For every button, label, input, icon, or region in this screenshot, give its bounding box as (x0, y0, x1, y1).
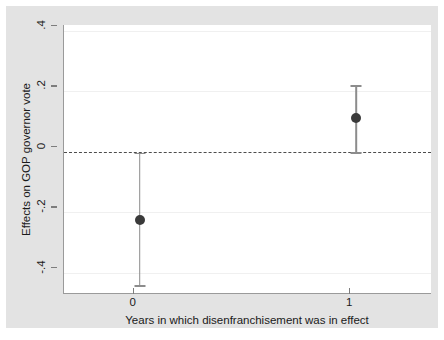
error-bar-cap-lower (351, 152, 362, 154)
gridline-y (64, 212, 431, 213)
y-axis-tick-label: -.4 (35, 260, 47, 273)
y-axis-tick-label: .2 (35, 81, 47, 91)
x-axis-tick-label: 0 (130, 296, 136, 308)
gridline-y (64, 273, 431, 274)
gridline-y (64, 91, 431, 92)
y-axis-tick-label: .4 (35, 20, 47, 30)
chart-screenshot: Effects on GOP governor vote .4.20-.2-.4… (0, 0, 444, 340)
y-axis-tick (51, 206, 57, 207)
y-axis-tick-label: -.2 (35, 200, 47, 213)
data-point-marker (135, 215, 145, 225)
data-point-marker (351, 113, 361, 123)
y-axis-tick (51, 85, 57, 86)
x-axis-title: Years in which disenfranchisement was in… (63, 314, 431, 326)
x-axis-tick (349, 288, 350, 294)
figure-background: Effects on GOP governor vote .4.20-.2-.4… (6, 6, 438, 328)
plot-inner (64, 25, 431, 293)
error-bar-cap-lower (134, 285, 145, 287)
y-axis-tick (51, 267, 57, 268)
plot-region (63, 25, 431, 294)
y-axis-title: Effects on GOP governor vote (18, 25, 34, 294)
zero-reference-line (64, 152, 431, 153)
error-bar-cap-upper (351, 85, 362, 87)
y-axis-tick (51, 146, 57, 147)
y-axis-tick-label: 0 (35, 143, 47, 149)
x-axis-tick-label: 1 (346, 296, 352, 308)
x-axis-tick (133, 288, 134, 294)
gridline-y (64, 31, 431, 32)
y-axis-tick (51, 25, 57, 26)
error-bar-cap-upper (134, 153, 145, 155)
